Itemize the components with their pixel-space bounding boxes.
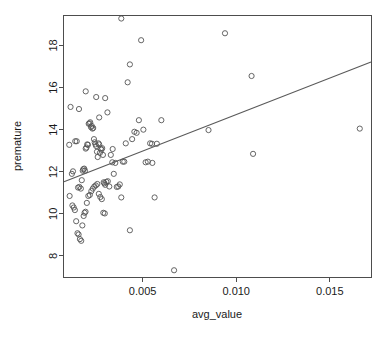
data-point	[80, 223, 85, 228]
x-tick-label: 0.005	[129, 285, 157, 297]
y-tick-label: 14	[47, 124, 59, 136]
y-tick-label: 12	[47, 166, 59, 178]
data-point	[110, 146, 115, 151]
data-point	[249, 73, 254, 78]
data-point	[83, 89, 88, 94]
data-point	[136, 118, 141, 123]
y-tick-label: 8	[47, 253, 59, 259]
y-tick-label: 10	[47, 208, 59, 220]
x-axis-ticks: 0.0050.0100.015	[129, 277, 344, 297]
data-point	[79, 238, 84, 243]
x-tick-label: 0.010	[222, 285, 250, 297]
data-point	[119, 16, 124, 21]
data-point	[94, 94, 99, 99]
data-point	[96, 191, 101, 196]
data-point	[103, 95, 108, 100]
x-tick-label: 0.015	[316, 285, 344, 297]
data-point	[108, 152, 113, 157]
data-point	[130, 137, 135, 142]
data-point	[68, 104, 73, 109]
data-point	[357, 126, 362, 131]
y-axis-title: premature	[11, 121, 23, 171]
data-point	[84, 200, 89, 205]
data-point	[93, 183, 98, 188]
plot-frame-border	[64, 16, 372, 278]
data-point	[76, 106, 81, 111]
data-point	[97, 115, 102, 120]
data-point	[139, 38, 144, 43]
data-point	[111, 171, 116, 176]
y-tick-label: 18	[47, 39, 59, 51]
y-axis-ticks: 81012141618	[47, 39, 64, 259]
data-point	[127, 62, 132, 67]
data-point	[119, 195, 124, 200]
data-points-group	[67, 16, 363, 273]
data-point	[206, 127, 211, 132]
y-tick-label: 16	[47, 81, 59, 93]
data-point	[123, 141, 128, 146]
scatter-plot-figure: 81012141618 0.0050.0100.015 avg_value pr…	[0, 0, 386, 341]
data-point	[250, 151, 255, 156]
data-point	[152, 195, 157, 200]
data-point	[105, 110, 110, 115]
data-point	[141, 127, 146, 132]
data-point	[159, 118, 164, 123]
data-point	[67, 193, 72, 198]
regression-trend-line	[64, 62, 371, 182]
data-point	[67, 142, 72, 147]
data-point	[127, 228, 132, 233]
data-point	[222, 31, 227, 36]
data-point	[74, 219, 79, 224]
data-point	[125, 80, 130, 85]
plot-canvas: 81012141618 0.0050.0100.015 avg_value pr…	[0, 0, 386, 341]
x-axis-title: avg_value	[192, 308, 242, 320]
data-point	[79, 178, 84, 183]
data-point	[77, 237, 82, 242]
data-point	[171, 268, 176, 273]
